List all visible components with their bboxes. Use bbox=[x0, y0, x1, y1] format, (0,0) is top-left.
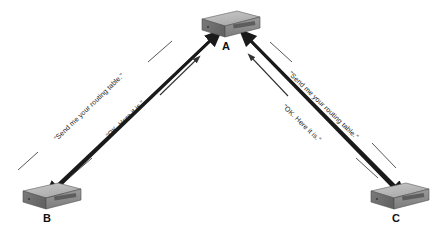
router-c bbox=[0, 0, 445, 240]
node-label-a: A bbox=[222, 41, 230, 52]
network-diagram: A B C "Send me your routing table." "OK.… bbox=[0, 0, 445, 240]
node-label-c: C bbox=[392, 213, 400, 224]
router-c-led bbox=[376, 198, 378, 200]
node-label-b: B bbox=[43, 213, 51, 224]
